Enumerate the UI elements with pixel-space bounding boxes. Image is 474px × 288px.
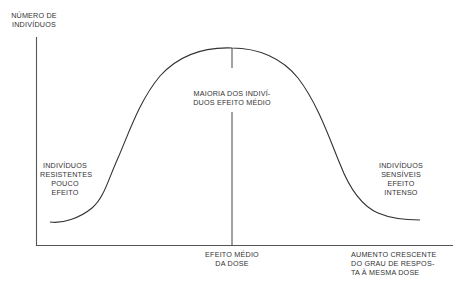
bell-curve-diagram bbox=[0, 0, 474, 288]
left-annotation: INDIVÍDUOS RESISTENTES POUCO EFEITO bbox=[40, 161, 90, 197]
mean-dose-label: EFEITO MÉDIO DA DOSE bbox=[197, 250, 267, 268]
center-annotation: MAIORIA DOS INDIVÍ- DUOS EFEITO MÉDIO bbox=[182, 89, 282, 107]
bell-curve bbox=[50, 48, 420, 222]
right-annotation: INDIVÍDUOS SENSÍVEIS EFEITO INTENSO bbox=[375, 161, 427, 197]
y-axis-label: NÚMERO DE INDIVÍDUOS bbox=[2, 11, 66, 29]
x-axis-label: AUMENTO CRESCENTE DO GRAU DE RESPOS- TA … bbox=[351, 250, 443, 277]
